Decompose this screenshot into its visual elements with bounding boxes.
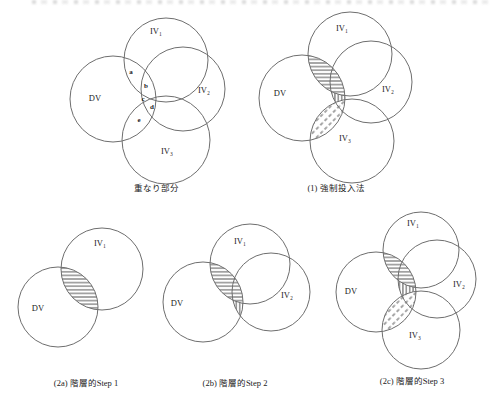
iv1-label: IV₁: [150, 26, 162, 36]
iv3-circle: [310, 99, 394, 183]
region-label-c: c: [141, 95, 144, 103]
iv2-label: IV₂: [281, 290, 293, 300]
diagram-forced-entry: DV IV₁ IV₂ IV₃ (1) 強制投入法: [259, 12, 412, 193]
iv1-label: IV₁: [407, 218, 419, 228]
dv-label: DV: [32, 303, 45, 313]
iv3-label: IV₃: [161, 146, 173, 156]
iv3-circle: [122, 96, 210, 184]
caption-step1: (2a) 階層的Step 1: [54, 378, 118, 388]
iv2-circle: [232, 253, 310, 331]
iv1-circle: [308, 12, 392, 96]
dv-label: DV: [345, 286, 358, 296]
iv1-label: IV₁: [234, 236, 246, 246]
diagram-overlap: DV IV₁ IV₂ IV₃ a b c d e 重なり部分: [70, 18, 225, 193]
region-label-e: e: [137, 116, 140, 124]
step2-hatches: [210, 224, 310, 331]
caption-step3: (2c) 階層的Step 3: [380, 376, 444, 386]
region-label-d: d: [150, 103, 154, 111]
iv2-circle: [141, 47, 225, 131]
caption-overlap: 重なり部分: [134, 183, 179, 193]
iv1-circle: [210, 224, 290, 304]
iv1-circle: [383, 212, 459, 288]
iv2-label: IV₂: [453, 279, 465, 289]
region-label-a: a: [129, 68, 133, 76]
venn-diagrams-figure: DV IV₁ IV₂ IV₃ a b c d e 重なり部分 DV IV₁ IV…: [0, 0, 494, 401]
iv3-label: IV₃: [409, 330, 421, 340]
dv-label: DV: [89, 93, 102, 103]
region-label-b: b: [144, 82, 148, 90]
iv3-circle: [382, 291, 460, 369]
diagram-step2: DV IV₁ IV₂ (2b) 階層的Step 2: [163, 224, 310, 388]
iv1-label: IV₁: [336, 23, 348, 33]
diagram-step1: DV IV₁ (2a) 階層的Step 1: [18, 228, 143, 388]
dv-label: DV: [274, 88, 287, 98]
step3-hatches: [382, 212, 476, 369]
iv2-label: IV₂: [382, 84, 394, 94]
iv2-label: IV₂: [198, 85, 210, 95]
diagram-step3: DV IV₁ IV₂ IV₃ (2c) 階層的Step 3: [336, 212, 476, 386]
iv1-label: IV₁: [94, 238, 106, 248]
dv-label: DV: [171, 298, 184, 308]
caption-forced-entry: (1) 強制投入法: [307, 183, 364, 193]
iv3-label: IV₃: [339, 133, 351, 143]
caption-step2: (2b) 階層的Step 2: [203, 378, 268, 388]
iv1-circle: [124, 18, 208, 102]
forced-entry-hatches: [308, 12, 412, 183]
